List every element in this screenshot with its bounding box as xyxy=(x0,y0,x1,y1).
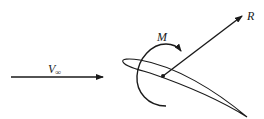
resultant-label: R xyxy=(246,9,255,23)
reference-point xyxy=(161,74,165,78)
freestream-label: V∞ xyxy=(48,62,61,77)
moment-label: M xyxy=(156,30,168,44)
airfoil-shape xyxy=(123,59,247,117)
airfoil-diagram: V∞ M R xyxy=(0,0,264,119)
moment-arc xyxy=(137,44,181,106)
